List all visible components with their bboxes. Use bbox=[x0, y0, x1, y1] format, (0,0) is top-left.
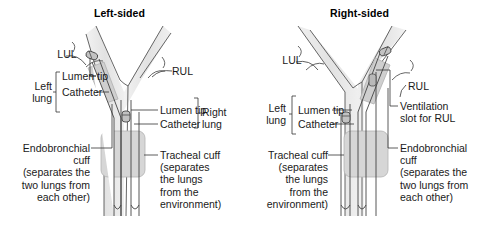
label-lumen-tip-right: Lumen tip bbox=[298, 104, 360, 116]
label-tracheal-cuff-left: Tracheal cuff (separates the lungs from … bbox=[160, 149, 238, 210]
label-left-lung-right: Left lung bbox=[244, 102, 286, 126]
lumen-tip-tracheal-left bbox=[122, 111, 130, 122]
label-lumen-tip-bronchial-left: Lumen tip bbox=[62, 70, 126, 82]
label-left-lung-left: Left lung bbox=[10, 80, 52, 104]
panel-left-sided: Left-sided bbox=[0, 0, 239, 226]
upper-lobe-bronchus-marks-right bbox=[298, 46, 413, 80]
label-lul-right: LUL bbox=[276, 54, 308, 66]
label-catheter-bronchial-left: Catheter bbox=[62, 86, 126, 98]
panel-right-sided: Right-sided bbox=[240, 0, 479, 226]
label-right-lung-left: Right lung bbox=[202, 106, 240, 130]
label-endobronchial-cuff-right: Endobronchial cuff (separates the two lu… bbox=[400, 142, 479, 203]
label-rul-left: RUL bbox=[172, 65, 206, 77]
label-endobronchial-cuff-left: Endobronchial cuff (separates the two lu… bbox=[2, 142, 90, 203]
label-ventilation-slot-right: Ventilation slot for RUL bbox=[400, 100, 478, 124]
label-catheter-right: Catheter bbox=[298, 118, 360, 130]
label-tracheal-cuff-right: Tracheal cuff (separates the lungs from … bbox=[242, 149, 328, 210]
label-lul-left: LUL bbox=[52, 48, 82, 60]
ventilation-slot-shape-right bbox=[369, 74, 376, 86]
label-rul-right: RUL bbox=[408, 80, 444, 92]
